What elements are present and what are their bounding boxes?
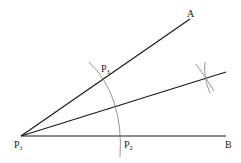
ray-p1-a bbox=[21, 19, 190, 136]
bisector-ray bbox=[21, 72, 226, 136]
label-p2-sub: 2 bbox=[130, 144, 133, 151]
label-b: B bbox=[225, 139, 232, 150]
label-p2: P2 bbox=[124, 139, 133, 151]
label-a: A bbox=[187, 8, 195, 19]
label-p1-sub: 1 bbox=[20, 144, 23, 151]
angle-bisection-diagram: A B P1 P2 P3 bbox=[0, 0, 241, 163]
label-p1: P1 bbox=[14, 139, 23, 151]
label-p3: P3 bbox=[101, 63, 110, 75]
label-p3-sub: 3 bbox=[107, 68, 110, 75]
